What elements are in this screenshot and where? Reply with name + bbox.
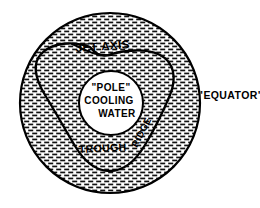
polar-vortex-diagram: JET AXIS "POLE" COOLING WATER TROUGH RID… xyxy=(0,0,260,208)
label-trough: TROUGH xyxy=(78,141,126,155)
figure-root: JET AXIS "POLE" COOLING WATER TROUGH RID… xyxy=(0,0,260,208)
label-core-water: WATER xyxy=(98,108,136,119)
label-equator: "EQUATOR" xyxy=(198,89,260,101)
label-core-pole: "POLE" xyxy=(91,82,130,93)
label-core-cooling: COOLING xyxy=(84,95,133,106)
